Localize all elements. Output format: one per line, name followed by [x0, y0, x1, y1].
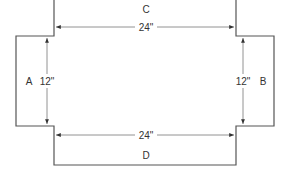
left-height-label: 12": [40, 76, 55, 87]
top-width-label: 24": [139, 22, 154, 33]
bottom-width-label: 24": [139, 130, 154, 141]
right-dimension: 12": [236, 38, 251, 124]
panel-d-label: D: [142, 150, 149, 161]
left-dimension: 12": [40, 38, 55, 124]
panel-c-label: C: [142, 4, 149, 15]
panel-b-label: B: [260, 76, 267, 87]
box-blank-diagram: 24" C 24" D 12" A 12" B: [0, 0, 285, 177]
bottom-dimension: 24": [56, 130, 234, 141]
panel-a-label: A: [26, 76, 33, 87]
right-height-label: 12": [236, 76, 251, 87]
top-dimension: 24": [56, 22, 234, 33]
